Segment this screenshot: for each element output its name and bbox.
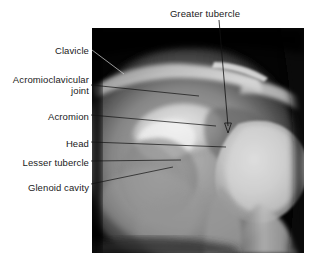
label-head: Head — [0, 138, 89, 149]
label-lesser-tubercle: Lesser tubercle — [0, 157, 89, 168]
label-glenoid-cavity-text: Glenoid cavity — [28, 182, 89, 193]
xray-image — [92, 28, 304, 253]
xray-image-panel — [92, 28, 304, 253]
label-acromioclavicular-joint: Acromioclavicular joint — [0, 74, 89, 96]
label-clavicle: Clavicle — [0, 45, 89, 56]
label-greater-tubercle: Greater tubercle — [140, 8, 270, 19]
label-lesser-tubercle-text: Lesser tubercle — [23, 157, 89, 168]
label-acromion-text: Acromion — [48, 111, 89, 122]
label-greater-tubercle-text: Greater tubercle — [170, 8, 240, 19]
radiograph-figure: Clavicle Acromioclavicular joint Acromio… — [0, 0, 313, 265]
label-glenoid-cavity: Glenoid cavity — [0, 182, 89, 193]
label-head-text: Head — [66, 138, 89, 149]
label-acromioclavicular-joint-line2: joint — [71, 85, 89, 96]
label-acromioclavicular-joint-line1: Acromioclavicular — [13, 74, 89, 85]
label-clavicle-text: Clavicle — [55, 45, 89, 56]
label-acromion: Acromion — [0, 111, 89, 122]
